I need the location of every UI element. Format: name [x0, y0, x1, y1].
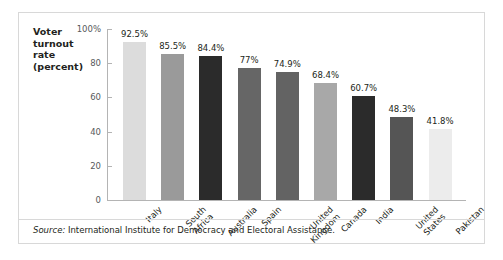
bar-fill	[352, 96, 375, 200]
category-label-italy: Italy	[144, 205, 164, 225]
bar-canada: 68.4%	[314, 83, 337, 200]
y-tick-label: 20	[90, 161, 101, 171]
category-label-line: Italy	[144, 205, 164, 225]
bar-fill	[429, 129, 452, 200]
y-tick-mark	[107, 97, 112, 98]
bar-australia: 84.4%	[199, 56, 222, 200]
category-label-line: India	[374, 205, 395, 226]
y-axis-title-line-4: (percent)	[33, 61, 95, 73]
source-label: Source:	[33, 225, 65, 235]
y-axis-title-line-2: turnout	[33, 38, 95, 50]
bar-value-label: 77%	[240, 55, 259, 65]
bar-fill	[390, 117, 413, 200]
category-label-pakistan: Pakistan	[455, 205, 487, 237]
bar-fill	[199, 56, 222, 200]
y-tick-mark	[107, 132, 112, 133]
y-tick-mark	[107, 29, 112, 30]
bar-south-africa: 85.5%	[161, 54, 184, 200]
bar-india: 60.7%	[352, 96, 375, 200]
category-label-india: India	[374, 205, 395, 226]
source-divider	[19, 219, 484, 220]
bar-value-label: 85.5%	[159, 41, 186, 51]
y-tick-mark	[107, 166, 112, 167]
category-label-united-states: UnitedStates	[414, 205, 447, 238]
bar-fill	[238, 68, 261, 200]
y-axis-title-line-3: rate	[33, 49, 95, 61]
bar-pakistan: 41.8%	[429, 129, 452, 200]
y-tick-mark	[107, 63, 112, 64]
source-note: Source: International Institute for Demo…	[33, 225, 335, 235]
bar-value-label: 84.4%	[197, 43, 224, 53]
bar-spain: 77%	[238, 68, 261, 200]
y-tick-mark	[107, 200, 112, 201]
bar-value-label: 41.8%	[427, 116, 454, 126]
y-tick-label: 40	[90, 127, 101, 137]
bar-italy: 92.5%	[123, 42, 146, 200]
source-text: International Institute for Democracy an…	[68, 225, 335, 235]
chart-figure: Voter turnout rate (percent) 02040608010…	[18, 12, 485, 244]
plot-area: 020406080100% 92.5%85.5%84.4%77%74.9%68.…	[107, 29, 466, 201]
x-axis-line	[107, 200, 466, 201]
bar-united-kingdom: 74.9%	[276, 72, 299, 200]
y-tick-label: 100%	[77, 24, 101, 34]
category-label-line: Pakistan	[455, 205, 487, 237]
bar-value-label: 60.7%	[350, 83, 377, 93]
bar-value-label: 74.9%	[274, 59, 301, 69]
y-tick-label: 0	[96, 195, 101, 205]
bar-fill	[123, 42, 146, 200]
bar-united-states: 48.3%	[390, 117, 413, 200]
y-tick-label: 80	[90, 58, 101, 68]
bar-value-label: 48.3%	[388, 104, 415, 114]
bar-value-label: 68.4%	[312, 70, 339, 80]
bar-fill	[276, 72, 299, 200]
bar-value-label: 92.5%	[121, 29, 148, 39]
bar-fill	[161, 54, 184, 200]
y-tick-label: 60	[90, 92, 101, 102]
bar-fill	[314, 83, 337, 200]
y-axis-line	[107, 29, 108, 201]
